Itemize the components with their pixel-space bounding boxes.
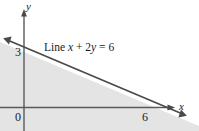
origin-label: 0 bbox=[15, 111, 21, 123]
annotation-equals-term: = 6 bbox=[96, 41, 114, 53]
y-axis-label: y bbox=[26, 1, 31, 12]
line-graph-figure: y x 3 6 0 Line x + 2y = 6 bbox=[0, 0, 199, 131]
annotation-plus-term: + 2 bbox=[73, 41, 91, 53]
graph-canvas bbox=[0, 0, 199, 131]
x-axis-label: x bbox=[179, 101, 184, 112]
x-intercept-tick-label: 6 bbox=[142, 111, 148, 123]
y-intercept-tick-label: 3 bbox=[15, 46, 21, 58]
shaded-region bbox=[0, 42, 199, 131]
line-equation-annotation: Line x + 2y = 6 bbox=[44, 42, 114, 54]
annotation-prefix: Line bbox=[44, 41, 68, 53]
